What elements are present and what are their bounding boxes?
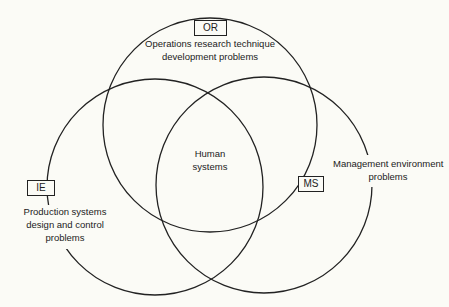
or-label: OR: [203, 22, 218, 33]
ms-description: Management environment problems: [333, 157, 443, 183]
ie-label: IE: [36, 182, 45, 193]
circle-ie: [47, 79, 263, 295]
ie-description: Production systems design and control pr…: [10, 205, 120, 244]
or-description: Operations research technique developmen…: [120, 37, 300, 63]
ms-label: MS: [304, 178, 319, 189]
or-label-box: OR: [194, 20, 227, 36]
ie-label-box: IE: [27, 180, 55, 196]
center-label: Human systems: [180, 147, 240, 173]
venn-diagram: OR Operations research technique develop…: [0, 0, 449, 307]
ms-label-box: MS: [298, 176, 324, 192]
